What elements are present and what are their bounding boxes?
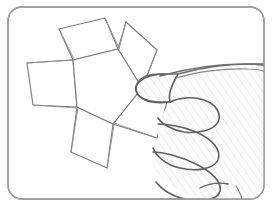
line-drawing-svg — [0, 0, 272, 208]
square-left — [27, 60, 77, 107]
illustration-canvas: Hand pointing at pentagon net Line drawi… — [0, 0, 272, 208]
